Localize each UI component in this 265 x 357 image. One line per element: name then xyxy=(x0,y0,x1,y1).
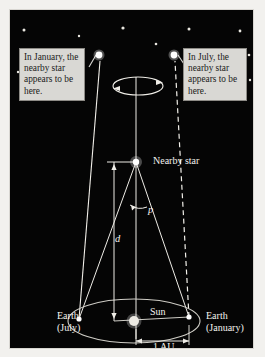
leg-january-to-star xyxy=(136,162,189,317)
label-distance: d xyxy=(115,233,120,244)
leg-july-to-star xyxy=(79,162,136,319)
label-baseline-au: 1 AU xyxy=(153,341,174,349)
label-sun: Sun xyxy=(150,306,166,317)
label-earth-january: Earth (January) xyxy=(206,310,254,333)
nearby-star-marker xyxy=(130,156,142,168)
apparent-star-july xyxy=(169,50,180,61)
apparent-star-january xyxy=(94,50,105,61)
parallax-figure: Nearby star Sun Earth (July) Earth (Janu… xyxy=(0,0,265,357)
distance-measure-d xyxy=(107,162,136,321)
sun-marker xyxy=(127,314,142,329)
label-parallax-angle: p xyxy=(148,204,153,215)
callout-january: In January, the nearby star appears to b… xyxy=(19,48,85,101)
label-earth-july: Earth (July) xyxy=(57,310,99,333)
apparent-motion-ellipse xyxy=(113,77,163,95)
orbit-radius-line xyxy=(114,317,189,321)
earth-january-marker xyxy=(186,314,191,319)
callout-july: In July, the nearby star appears to be h… xyxy=(183,48,247,101)
label-nearby-star: Nearby star xyxy=(153,155,199,166)
